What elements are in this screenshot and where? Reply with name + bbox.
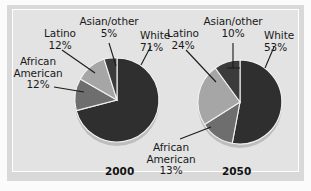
pie-2050-label-african-american-value: 13%	[138, 165, 204, 177]
pie-2050-label-white: White 53%	[264, 30, 294, 53]
pie-2050-label-white-name: White	[264, 30, 294, 42]
pie-2000-year-label: 2000	[105, 165, 134, 177]
pie-2000-label-african-american: African American 12%	[6, 56, 70, 91]
pie-2000-label-african-american-line1: African	[6, 56, 70, 68]
pie-2050-year-label: 2050	[222, 165, 251, 177]
pie-2000-label-asian-other-name: Asian/other	[73, 16, 145, 28]
pie-2050-label-latino-value: 24%	[155, 40, 211, 52]
pie-2050-label-latino-name: Latino	[155, 28, 211, 40]
pie-2000-label-latino-value: 12%	[32, 40, 88, 52]
plot-area: Asian/other 5% White 71% Latino 12% Afri…	[0, 0, 311, 191]
pie-2050-label-latino: Latino 24%	[155, 28, 211, 51]
pie-2050-leader-african-american	[180, 127, 211, 139]
pie-2050-label-white-value: 53%	[264, 42, 294, 54]
pie-2050-label-asian-other-name: Asian/other	[196, 16, 270, 28]
pie-2050-leader-latino	[186, 50, 216, 82]
figure-root: Asian/other 5% White 71% Latino 12% Afri…	[0, 0, 311, 191]
pie-2050-group	[180, 43, 282, 148]
pie-2000-label-latino: Latino 12%	[32, 28, 88, 51]
pie-2050-label-african-american: African American 13%	[138, 142, 204, 177]
pie-2000-label-latino-name: Latino	[32, 28, 88, 40]
pie-2000-label-african-american-value: 12%	[6, 79, 70, 91]
pie-2050-label-african-american-line1: African	[138, 142, 204, 154]
